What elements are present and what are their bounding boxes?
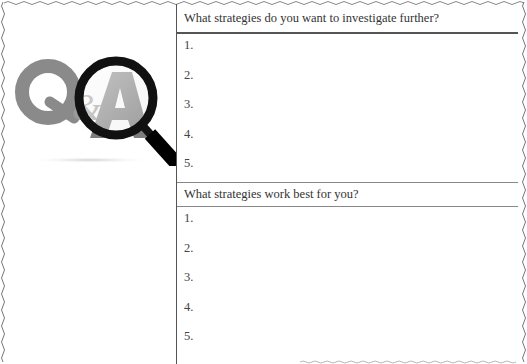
answer-line-2[interactable]: 2. [177, 237, 518, 267]
answer-line-4[interactable]: 4. [177, 123, 518, 153]
question-heading: What strategies do you want to investiga… [177, 4, 518, 32]
answer-line-1[interactable]: 1. [177, 34, 518, 64]
answer-line-5[interactable]: 5. [177, 325, 518, 355]
answer-line-4[interactable]: 4. [177, 296, 518, 326]
question-section-1: What strategies do you want to investiga… [177, 4, 518, 182]
questions-column: What strategies do you want to investiga… [177, 4, 518, 355]
answer-line-5[interactable]: 5. [177, 152, 518, 182]
letter-q [22, 66, 74, 118]
answer-line-3[interactable]: 3. [177, 266, 518, 296]
wavy-left-edge [0, 2, 6, 364]
worksheet-page: & What strategies do you want to investi… [0, 0, 527, 364]
answer-line-3[interactable]: 3. [177, 93, 518, 123]
q-and-a-magnifier-icon: & [12, 36, 177, 166]
answer-line-1[interactable]: 1. [177, 207, 518, 237]
wavy-right-edge [521, 2, 527, 364]
question-heading: What strategies work best for you? [177, 183, 518, 206]
question-section-2: What strategies work best for you? 1. 2.… [177, 183, 518, 355]
answer-line-2[interactable]: 2. [177, 64, 518, 94]
wavy-bottom-edge [300, 360, 520, 364]
